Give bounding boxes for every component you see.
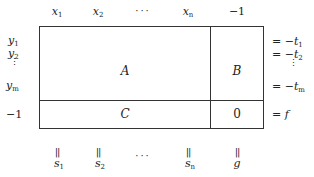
variable-subscript: n <box>189 11 194 19</box>
left-label-minus-one: −1 <box>6 109 22 121</box>
left-vertical-ellipsis: ⋮ <box>10 60 19 64</box>
equals-minus: = − <box>272 35 294 48</box>
variable-subscript: 1 <box>298 41 302 49</box>
bottom-equals-sn: || <box>186 146 191 157</box>
bottom-equals-s2: || <box>96 146 101 157</box>
variable-subscript: 1 <box>58 11 62 19</box>
left-label-ym: ym <box>6 80 19 95</box>
variable-subscript: m <box>298 86 305 94</box>
top-label-minus-one: −1 <box>229 6 245 18</box>
bottom-label-sn: sn <box>185 158 195 173</box>
right-label-f: = f <box>272 109 289 121</box>
top-label-xn: xn <box>183 6 194 21</box>
bottom-label-s1: s1 <box>54 158 64 173</box>
cell-vector-b: B <box>233 64 242 78</box>
variable-subscript: 1 <box>60 163 64 171</box>
right-label-tm: = −tm <box>272 81 305 96</box>
variable-subscript: 1 <box>14 40 18 48</box>
top-label-x2: x2 <box>93 6 104 21</box>
bottom-label-g: g <box>233 158 240 170</box>
tableau-frame <box>39 26 264 129</box>
variable-symbol: f <box>285 108 289 121</box>
bottom-equals-g: || <box>235 146 240 157</box>
variable-symbol: g <box>233 157 240 170</box>
bottom-label-s2: s2 <box>95 158 105 173</box>
variable-subscript: 2 <box>298 54 302 62</box>
tableau-horizontal-divider <box>39 100 264 101</box>
tableau-vertical-divider <box>210 26 211 129</box>
variable-subscript: m <box>12 85 19 93</box>
cell-vector-c: C <box>120 107 129 121</box>
cell-zero: 0 <box>233 107 241 121</box>
variable-subscript: 2 <box>101 163 105 171</box>
variable-subscript: 2 <box>99 11 103 19</box>
variable-subscript: n <box>191 163 196 171</box>
right-label-t2: = −t2 <box>272 49 303 64</box>
cell-matrix-a: A <box>121 64 130 78</box>
right-vertical-ellipsis: ⋮ <box>289 61 298 65</box>
bottom-equals-s1: || <box>55 146 60 157</box>
equals-sign: = <box>272 108 285 121</box>
equals-minus: = − <box>272 80 294 93</box>
top-ellipsis: ··· <box>135 5 151 16</box>
top-label-x1: x1 <box>52 6 63 21</box>
bottom-ellipsis: ··· <box>135 150 151 161</box>
